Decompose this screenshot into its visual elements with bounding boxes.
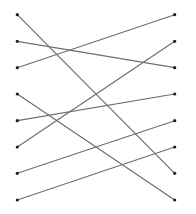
edge-L2-R3 (17, 41, 174, 67)
bipartite-diagram (0, 0, 196, 214)
left-node-L3 (16, 66, 19, 69)
right-node-R8 (173, 198, 176, 201)
right-node-R2 (173, 40, 176, 43)
right-nodes-layer (173, 13, 176, 201)
left-nodes-layer (16, 13, 19, 201)
right-node-R7 (173, 172, 176, 175)
right-node-R4 (173, 92, 176, 95)
edge-L3-R1 (17, 15, 174, 68)
edge-L7-R5 (17, 121, 174, 174)
left-node-L1 (16, 13, 19, 16)
left-node-L7 (16, 172, 19, 175)
right-node-R5 (173, 119, 176, 122)
left-node-L6 (16, 145, 19, 148)
left-node-L5 (16, 119, 19, 122)
left-node-L4 (16, 92, 19, 95)
left-node-L2 (16, 40, 19, 43)
edges-layer (17, 15, 174, 200)
right-node-R3 (173, 66, 176, 69)
edge-L6-R2 (17, 41, 174, 147)
left-node-L8 (16, 198, 19, 201)
edge-L8-R6 (17, 147, 174, 200)
edge-L5-R4 (17, 94, 174, 121)
right-node-R6 (173, 145, 176, 148)
right-node-R1 (173, 13, 176, 16)
